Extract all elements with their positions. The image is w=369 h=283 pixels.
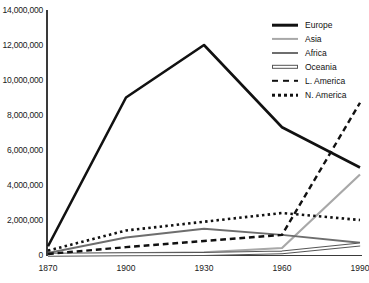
series-line-lamerica bbox=[48, 103, 360, 254]
series-line-asia bbox=[48, 175, 360, 255]
legend-item-europe[interactable]: Europe bbox=[272, 18, 347, 32]
legend-label: Asia bbox=[305, 35, 322, 44]
x-axis-tick-label: 1930 bbox=[195, 263, 214, 273]
legend-swatch-lamerica-icon bbox=[272, 76, 298, 87]
legend-swatch-namerica-icon bbox=[272, 90, 298, 101]
x-axis-tick-label: 1960 bbox=[273, 263, 292, 273]
chart-legend: EuropeAsiaAfricaOceaniaL. AmericaN. Amer… bbox=[272, 18, 347, 102]
legend-item-lamerica[interactable]: L. America bbox=[272, 74, 347, 88]
legend-item-asia[interactable]: Asia bbox=[272, 32, 347, 46]
legend-label: Europe bbox=[305, 21, 332, 30]
x-axis-tick-label: 1900 bbox=[117, 263, 136, 273]
legend-label: N. America bbox=[305, 91, 347, 100]
legend-label: Oceania bbox=[305, 63, 337, 72]
legend-item-namerica[interactable]: N. America bbox=[272, 88, 347, 102]
legend-swatch-africa-icon bbox=[272, 48, 298, 59]
legend-label: Africa bbox=[305, 49, 327, 58]
legend-swatch-europe-icon bbox=[272, 20, 298, 31]
x-axis-tick-label: 1990 bbox=[351, 263, 369, 273]
legend-swatch-oceania-icon bbox=[272, 62, 298, 73]
legend-swatch-asia-icon bbox=[272, 34, 298, 45]
legend-label: L. America bbox=[305, 77, 345, 86]
legend-item-africa[interactable]: Africa bbox=[272, 46, 347, 60]
legend-item-oceania[interactable]: Oceania bbox=[272, 60, 347, 74]
x-axis-tick-label: 1870 bbox=[39, 263, 58, 273]
